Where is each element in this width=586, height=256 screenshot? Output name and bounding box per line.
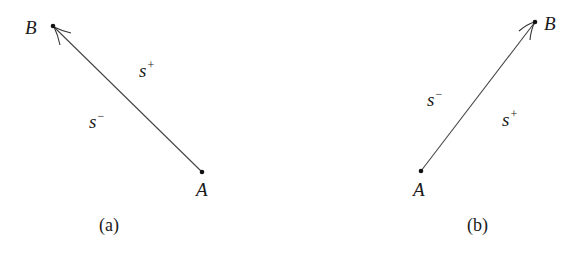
panel-a-label-a: A — [196, 180, 208, 199]
panel-a-s-plus: s+ — [139, 61, 154, 80]
panel-a-arrow — [51, 24, 205, 175]
point-b-dot — [533, 20, 538, 25]
panel-a-s-minus: s− — [89, 112, 104, 131]
panel-b-caption: (b) — [467, 216, 488, 234]
superscript: − — [435, 87, 442, 101]
s-base: s — [502, 109, 509, 130]
superscript: + — [510, 107, 517, 121]
s-base: s — [427, 89, 434, 110]
panel-b-label-a: A — [413, 180, 425, 199]
panel-b-s-minus: s− — [427, 90, 442, 109]
superscript: + — [147, 58, 154, 72]
point-a-dot — [200, 170, 205, 175]
superscript: − — [97, 109, 104, 123]
panel-b-label-b: B — [544, 14, 556, 33]
s-base: s — [139, 60, 146, 81]
point-a-dot — [419, 169, 424, 174]
panel-a-caption: (a) — [99, 216, 119, 234]
panel-a-label-b: B — [25, 18, 37, 37]
s-base: s — [89, 111, 96, 132]
panel-b-s-plus: s+ — [502, 110, 517, 129]
diagram-canvas — [0, 0, 586, 256]
point-b-dot — [51, 24, 56, 29]
